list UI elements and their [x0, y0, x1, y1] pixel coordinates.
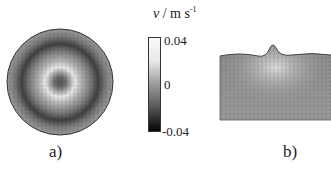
colorbar-title: v / m s-1	[153, 5, 197, 22]
panel-a-label: a)	[49, 142, 62, 162]
unit-text: / m s	[159, 6, 190, 21]
panel-b-label: b)	[283, 142, 297, 162]
unit-exponent: -1	[190, 5, 197, 14]
colorbar-tick-min: -0.04	[162, 124, 189, 140]
colorbar	[148, 37, 161, 132]
panel-b-plot	[220, 45, 331, 120]
colorbar-tick-zero: 0	[164, 77, 171, 93]
colorbar-tick-max: 0.04	[164, 33, 187, 49]
panel-a-plot	[7, 29, 113, 135]
